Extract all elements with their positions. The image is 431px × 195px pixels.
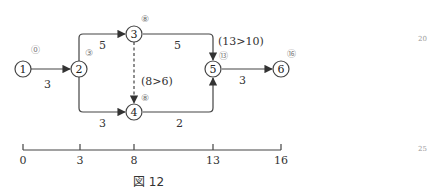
earliest-time-3: ⑧: [141, 14, 149, 24]
earliest-time-6: ⑯: [287, 49, 296, 59]
duration-1-2: 3: [44, 78, 51, 91]
svg-text:2: 2: [76, 63, 83, 76]
tick-8: 8: [131, 154, 138, 167]
earliest-time-5: ⑬: [219, 51, 228, 61]
margin-number-25: 25: [418, 145, 427, 153]
edge-2-4: [79, 77, 125, 112]
duration-3-5: 5: [174, 39, 181, 52]
earliest-time-2: ③: [85, 48, 93, 58]
duration-2-4: 3: [99, 117, 106, 130]
earliest-time-4: ⑧: [141, 93, 149, 103]
node-4: 4 ⑧: [126, 93, 149, 120]
figure-caption: 図 12: [133, 172, 164, 189]
svg-text:3: 3: [131, 28, 138, 41]
node-6: 6 ⑯: [273, 49, 296, 77]
network-diagram: 3 5 3 5 2 3 (13>10) (8>6) 1 ⓪ 2 ③ 3 ⑧ 4 …: [0, 0, 431, 195]
duration-2-3: 5: [99, 39, 106, 52]
tick-16: 16: [274, 154, 288, 167]
earliest-time-1: ⓪: [31, 45, 40, 55]
svg-text:6: 6: [278, 63, 285, 76]
node-2: 2 ③: [71, 48, 93, 77]
tick-13: 13: [206, 154, 220, 167]
tick-3: 3: [77, 154, 84, 167]
svg-text:5: 5: [210, 63, 217, 76]
node5-comparison: (13>10): [218, 35, 264, 48]
tick-0: 0: [20, 154, 27, 167]
node4-comparison: (8>6): [141, 75, 173, 88]
duration-5-6: 3: [239, 74, 246, 87]
node-5: 5 ⑬: [205, 51, 228, 77]
node-3: 3 ⑧: [126, 14, 149, 42]
svg-text:4: 4: [131, 106, 138, 119]
svg-text:1: 1: [20, 63, 27, 76]
duration-4-5: 2: [176, 117, 183, 130]
node-1: 1 ⓪: [15, 45, 40, 77]
timeline-axis: 0 3 8 13 16: [20, 144, 289, 167]
margin-number-20: 20: [418, 35, 427, 43]
